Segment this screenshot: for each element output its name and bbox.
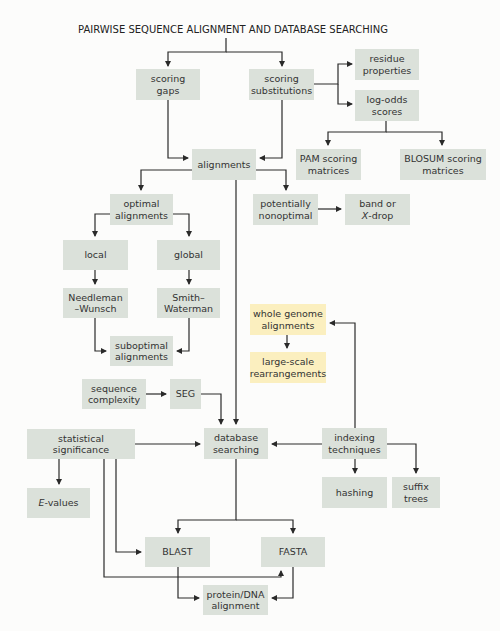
node-label: scoring substitutions [251, 73, 312, 96]
node-alignments: alignments [192, 149, 256, 180]
node-indexing-techniques: indexing techniques [322, 428, 387, 459]
node-smith-waterman: Smith– Waterman [157, 288, 220, 318]
node-band-or-x-drop: band orX-drop [345, 194, 410, 225]
node-global: global [157, 240, 220, 270]
node-sequence-complexity: sequence complexity [82, 379, 146, 409]
node-label: residue properties [363, 53, 411, 76]
node-label: PAM scoring matrices [300, 153, 357, 176]
node-whole-genome-alignments: whole genome alignments [250, 304, 326, 335]
node-hashing: hashing [322, 477, 387, 508]
node-label: alignments [198, 159, 251, 171]
node-database-searching: database searching [204, 428, 268, 459]
node-label: global [174, 249, 203, 261]
node-suboptimal-alignments: suboptimal alignments [110, 336, 173, 366]
node-optimal-alignments: optimal alignments [110, 194, 173, 225]
node-blosum-scoring-matrices: BLOSUM scoring matrices [400, 149, 486, 180]
node-log-odds-scores: log-odds scores [355, 90, 419, 121]
node-label: BLAST [162, 546, 192, 558]
node-label: large-scale rearrangements [250, 356, 327, 379]
node-label: -values [44, 497, 78, 508]
node-protein-dna-alignment: protein/DNA alignment [203, 585, 268, 615]
node-label: potentially nonoptimal [259, 198, 313, 221]
node-suffix-trees: suffix trees [392, 477, 440, 508]
node-potentially-nonoptimal: potentially nonoptimal [253, 194, 318, 225]
node-e-values: E-values [27, 488, 90, 518]
node-seg: SEG [170, 379, 201, 409]
node-label: local [84, 249, 106, 261]
node-label: whole genome alignments [253, 308, 323, 331]
node-label: statistical significance [29, 433, 133, 456]
node-label: Smith– Waterman [164, 292, 213, 315]
node-label: sequence complexity [88, 383, 140, 406]
node-needleman-wunsch: Needleman –Wunsch [63, 288, 128, 318]
node-fasta: FASTA [261, 537, 325, 567]
node-label: protein/DNA alignment [207, 589, 265, 612]
node-scoring-gaps: scoring gaps [136, 69, 200, 100]
node-label: indexing techniques [328, 432, 380, 455]
node-statistical-significance: statistical significance [27, 429, 135, 459]
node-label: database searching [213, 432, 259, 455]
node-label: suffix trees [403, 481, 429, 504]
node-residue-properties: residue properties [355, 49, 419, 80]
diagram-title: PAIRWISE SEQUENCE ALIGNMENT AND DATABASE… [78, 24, 388, 35]
node-label: BLOSUM scoring matrices [404, 153, 482, 176]
node-large-scale-rearrangements: large-scale rearrangements [250, 352, 326, 383]
node-blast: BLAST [145, 537, 210, 567]
node-label: log-odds scores [367, 94, 408, 117]
node-label: Needleman –Wunsch [68, 292, 122, 315]
node-label: hashing [336, 487, 374, 499]
node-local: local [63, 240, 128, 270]
node-label: optimal alignments [115, 198, 168, 221]
node-label: FASTA [279, 546, 308, 558]
node-label: suboptimal alignments [115, 340, 168, 363]
node-label: -drop [368, 210, 393, 221]
node-label: SEG [176, 388, 195, 400]
node-label: band or [359, 198, 396, 209]
node-scoring-substitutions: scoring substitutions [249, 69, 314, 100]
node-pam-scoring-matrices: PAM scoring matrices [296, 149, 361, 180]
node-label: scoring gaps [151, 73, 186, 96]
